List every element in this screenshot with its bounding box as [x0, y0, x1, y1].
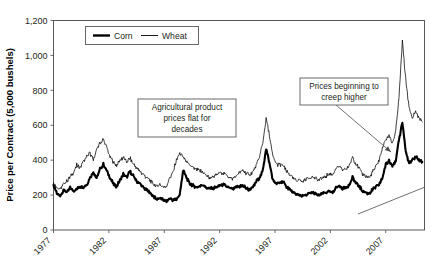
annotation-line: creep higher [321, 93, 367, 102]
y-tick-label: 800 [32, 86, 47, 96]
y-axis-title: Price per Contract (5,000 bushels) [4, 48, 15, 202]
annotation-line: prices flat for [164, 114, 211, 123]
y-tick-label: 0 [42, 225, 47, 235]
y-tick-label: 400 [32, 155, 47, 165]
annotation-line: Agricultural product [152, 103, 223, 112]
legend-label-corn: Corn [114, 31, 133, 41]
annotation-line: Prices beginning to [309, 82, 379, 91]
legend-label-wheat: Wheat [162, 31, 187, 41]
chart-container: 02004006008001,0001,200 1977198219871992… [0, 0, 445, 271]
price-per-contract-line-chart: 02004006008001,0001,200 1977198219871992… [0, 0, 445, 271]
y-tick-label: 1,200 [25, 16, 48, 26]
y-tick-label: 1,000 [25, 51, 48, 61]
annotation-flat-prices: Agricultural product prices flat for dec… [138, 99, 236, 137]
annotation-line: decades [172, 125, 203, 134]
y-tick-label: 200 [32, 190, 47, 200]
chart-legend: Corn Wheat [86, 27, 199, 45]
y-tick-label: 600 [32, 120, 47, 130]
